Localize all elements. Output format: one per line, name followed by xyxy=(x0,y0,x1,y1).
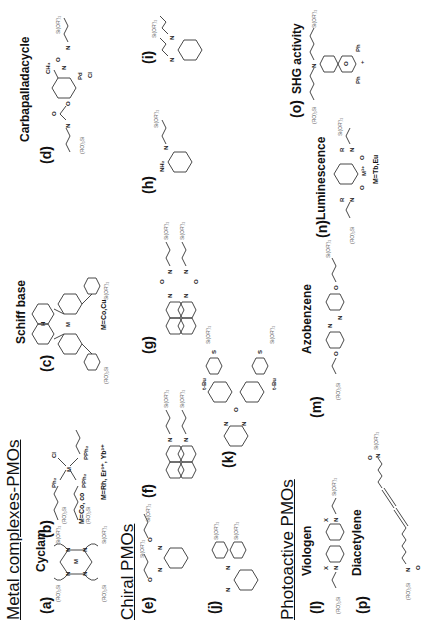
diacetylene-structure: (RO)₃Si N O N O Si(OR')₃ xyxy=(366,420,422,600)
svg-text:NH₂: NH₂ xyxy=(159,160,165,172)
note-n: M=Tb,Eu xyxy=(372,155,379,184)
svg-text:N: N xyxy=(163,146,169,150)
pyrylium-dye-structure: (RO)₃Si N Si(OR')₃ O Ph Ph + xyxy=(306,0,366,124)
svg-text:O: O xyxy=(415,565,421,570)
svg-text:N: N xyxy=(183,438,189,442)
svg-text:(RO)₃Si: (RO)₃Si xyxy=(335,383,341,400)
svg-text:N: N xyxy=(157,568,163,572)
svg-text:Si(OR')₃: Si(OR')₃ xyxy=(153,110,159,128)
svg-text:N: N xyxy=(375,454,381,458)
svg-text:O: O xyxy=(333,285,339,290)
name-azobenzene: Azobenzene xyxy=(300,284,314,354)
svg-text:N: N xyxy=(327,324,333,328)
binaphthyl-diamine-structure: N N Si(OR')₃ Si(OR')₃ xyxy=(140,364,200,484)
svg-text:(RO)₃Si: (RO)₃Si xyxy=(405,583,411,600)
svg-text:O: O xyxy=(55,57,61,62)
svg-text:Si(OR')₃: Si(OR')₃ xyxy=(55,16,61,34)
svg-text:S: S xyxy=(211,350,217,354)
svg-text:N: N xyxy=(167,270,173,274)
chiral-urea-diamine-structure: N N O O Si(OR')₃ Si(OR')₃ xyxy=(140,498,200,598)
name-carbapalladacycle: Carbapalladacycle xyxy=(18,37,32,142)
svg-text:(RO)₃Si: (RO)₃Si xyxy=(61,507,67,524)
svg-text:N: N xyxy=(337,316,343,320)
cyclohexane-amine-structure: NH₂ N Si(OR')₃ xyxy=(140,100,200,180)
svg-text:N: N xyxy=(241,422,247,426)
svg-text:Si(OR')₃: Si(OR')₃ xyxy=(269,326,275,344)
cyclam-structure: N N N N M (RO)₃Si Si(OR')₃ (RO)₃Si Si(OR… xyxy=(50,522,110,602)
salen-vanadium-structure: N N O t-Bu t-Bu S S Si(OR')₃ Si(OR')₃ xyxy=(200,304,280,454)
svg-text:M: M xyxy=(66,467,72,472)
name-viologen: Viologen xyxy=(300,526,314,576)
svg-text:X: X xyxy=(323,518,329,522)
svg-text:N: N xyxy=(333,566,339,570)
name-shg-activity: SHG activity xyxy=(290,23,304,94)
svg-text:N: N xyxy=(82,548,88,552)
pmo-scheme-figure: Metal complexes-PMOs Chiral PMOs Photoac… xyxy=(0,0,427,624)
svg-text:N: N xyxy=(65,548,71,552)
svg-text:O: O xyxy=(359,155,365,160)
svg-text:N: N xyxy=(61,66,67,70)
azobenzene-structure: (RO)₃Si O N N O Si(OR')₃ xyxy=(318,220,348,400)
svg-text:PPh₂: PPh₂ xyxy=(83,445,89,460)
svg-text:(RO)₃Si: (RO)₃Si xyxy=(349,227,355,244)
svg-text:Si(OR')₃: Si(OR')₃ xyxy=(103,282,109,300)
name-luminescence: Luminescence xyxy=(314,137,328,220)
svg-text:(RO)₃Si: (RO)₃Si xyxy=(335,597,341,614)
svg-text:N: N xyxy=(349,198,355,202)
svg-text:Si(OR')₃: Si(OR')₃ xyxy=(213,522,219,540)
svg-text:Si(OR')₃: Si(OR')₃ xyxy=(233,522,239,540)
svg-text:Si(OR')₃: Si(OR')₃ xyxy=(179,222,185,240)
svg-text:Si(OR')₃: Si(OR')₃ xyxy=(151,20,157,38)
svg-text:O: O xyxy=(193,279,199,284)
svg-text:N: N xyxy=(183,294,189,298)
svg-text:N: N xyxy=(225,588,231,592)
label-e: (e) xyxy=(140,597,156,614)
svg-text:O: O xyxy=(367,455,373,460)
svg-text:Ph₂: Ph₂ xyxy=(51,477,57,488)
svg-text:Si(OR')₃: Si(OR')₃ xyxy=(311,10,317,28)
svg-text:O: O xyxy=(359,185,365,190)
svg-text:t-Bu: t-Bu xyxy=(201,378,207,390)
svg-text:N: N xyxy=(225,566,231,570)
svg-text:Si(OR')₃: Si(OR')₃ xyxy=(140,540,145,558)
svg-text:(RO)₃Si: (RO)₃Si xyxy=(79,137,85,154)
chiral-benzylamine-structure: N N Si(OR')₃ Si(OR')₃ xyxy=(206,498,266,598)
svg-text:Si(OR')₃: Si(OR')₃ xyxy=(179,390,185,408)
viologen-structure: (RO)₃Si N X N X Si(OR')₃ xyxy=(318,414,348,614)
label-j: (j) xyxy=(206,601,222,614)
svg-text:O: O xyxy=(233,407,239,412)
svg-text:Si(OR')₃: Si(OR')₃ xyxy=(373,432,379,450)
svg-text:N: N xyxy=(311,64,317,68)
svg-text:N: N xyxy=(65,124,71,128)
svg-text:+: + xyxy=(359,60,365,64)
cyclohexane-diamine-structure: N N Si(OR')₃ xyxy=(150,0,210,68)
svg-text:R: R xyxy=(339,197,345,202)
svg-text:(RO)₃Si: (RO)₃Si xyxy=(101,585,107,602)
svg-text:H: H xyxy=(40,322,46,326)
svg-text:N: N xyxy=(167,294,173,298)
svg-text:N: N xyxy=(183,270,189,274)
binaphthyl-urea-structure: N N O O N N Si(OR')₃ Si(OR')₃ xyxy=(140,200,200,340)
svg-text:N: N xyxy=(405,568,411,572)
svg-text:Pd: Pd xyxy=(77,72,83,80)
svg-text:N: N xyxy=(82,572,88,576)
svg-text:O: O xyxy=(51,111,57,116)
svg-text:M: M xyxy=(73,559,79,564)
svg-text:N: N xyxy=(169,36,175,40)
phosphine-metal-structure: M Ph₂ PPh₂ Cl PPh₂ (RO)₃Si (RO)₃Si xyxy=(48,424,98,524)
svg-text:O: O xyxy=(333,351,339,356)
svg-text:N: N xyxy=(333,518,339,522)
svg-text:CH₃: CH₃ xyxy=(45,62,51,74)
svg-text:N: N xyxy=(349,148,355,152)
label-o: (o) xyxy=(288,100,304,118)
svg-text:N: N xyxy=(167,438,173,442)
section-title-photoactive: Photoactive PMOs xyxy=(278,479,298,620)
svg-text:Ph: Ph xyxy=(355,44,361,52)
svg-text:O: O xyxy=(343,61,349,66)
svg-text:N: N xyxy=(223,422,229,426)
svg-text:(RO)₃Si: (RO)₃Si xyxy=(103,367,109,384)
schiff-base-structure: H M (RO)₃Si Si(OR')₃ xyxy=(30,274,110,384)
section-title-metal-complexes: Metal complexes-PMOs xyxy=(4,440,24,620)
label-f: (f) xyxy=(140,484,156,498)
note-b: M=Rh, Er³⁺, Yb³⁺ xyxy=(100,444,108,500)
